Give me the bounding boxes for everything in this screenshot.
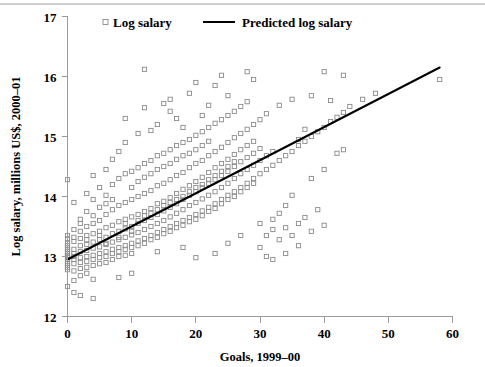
- data-point: [142, 214, 146, 218]
- data-point: [142, 106, 146, 110]
- data-point: [303, 127, 307, 131]
- data-point: [162, 232, 166, 236]
- data-point: [226, 140, 230, 144]
- data-point: [117, 203, 121, 207]
- data-point: [264, 112, 268, 116]
- data-point: [130, 169, 134, 173]
- data-point: [219, 145, 223, 149]
- data-point: [149, 188, 153, 192]
- data-point: [78, 260, 82, 264]
- data-point: [78, 293, 82, 297]
- x-axis-title: Goals, 1999–00: [220, 350, 301, 364]
- data-point: [142, 227, 146, 231]
- data-point: [226, 197, 230, 201]
- data-point: [110, 251, 114, 255]
- data-point: [200, 197, 204, 201]
- data-point: [264, 233, 268, 237]
- data-point: [271, 227, 275, 231]
- data-point: [91, 296, 95, 300]
- data-point: [123, 200, 127, 204]
- data-point: [213, 83, 217, 87]
- data-point: [117, 149, 121, 153]
- data-point: [168, 224, 172, 228]
- data-point: [97, 218, 101, 222]
- data-point: [181, 170, 185, 174]
- data-point: [226, 164, 230, 168]
- data-point: [117, 245, 121, 249]
- data-point: [110, 157, 114, 161]
- data-point: [130, 215, 134, 219]
- data-point: [181, 140, 185, 144]
- data-point: [91, 214, 95, 218]
- x-axis-tick-label: 50: [382, 326, 395, 341]
- data-point: [219, 173, 223, 177]
- data-point: [219, 118, 223, 122]
- y-axis-title: Log salary, millions US$, 2000–01: [9, 77, 23, 257]
- data-point: [104, 241, 108, 245]
- data-point: [239, 185, 243, 189]
- data-point: [85, 191, 89, 195]
- data-point: [187, 203, 191, 207]
- y-axis-tick-label: 16: [44, 70, 58, 85]
- scatter-plot: 1213141516170102030405060Goals, 1999–00L…: [0, 0, 485, 367]
- data-point: [174, 191, 178, 195]
- data-point: [149, 158, 153, 162]
- data-point: [181, 245, 185, 249]
- data-point: [168, 200, 172, 204]
- data-point: [239, 233, 243, 237]
- data-point: [277, 158, 281, 162]
- data-point: [136, 179, 140, 183]
- data-point: [245, 127, 249, 131]
- data-point: [85, 259, 89, 263]
- data-point: [341, 110, 345, 114]
- data-point: [117, 235, 121, 239]
- data-point: [97, 245, 101, 249]
- data-point: [104, 250, 108, 254]
- data-point: [91, 277, 95, 281]
- data-point: [271, 163, 275, 167]
- data-point: [149, 224, 153, 228]
- data-point: [136, 212, 140, 216]
- data-point: [78, 266, 82, 270]
- data-point: [245, 143, 249, 147]
- x-axis-tick-label: 0: [64, 326, 71, 341]
- x-axis-tick-label: 10: [125, 326, 138, 341]
- data-point: [181, 218, 185, 222]
- data-point: [181, 223, 185, 227]
- data-point: [91, 240, 95, 244]
- data-point: [194, 148, 198, 152]
- data-point: [258, 172, 262, 176]
- data-point: [232, 164, 236, 168]
- data-point: [91, 197, 95, 201]
- data-point: [123, 116, 127, 120]
- data-point: [104, 254, 108, 258]
- data-point: [168, 148, 172, 152]
- data-point: [97, 251, 101, 255]
- data-point: [226, 193, 230, 197]
- data-point: [110, 197, 114, 201]
- data-point: [284, 226, 288, 230]
- data-point: [155, 221, 159, 225]
- data-point: [316, 208, 320, 212]
- data-point: [130, 197, 134, 201]
- x-axis-tick-label: 60: [446, 326, 459, 341]
- data-point: [290, 149, 294, 153]
- data-point: [200, 209, 204, 213]
- data-point: [207, 139, 211, 143]
- data-point: [348, 104, 352, 108]
- data-point: [136, 244, 140, 248]
- data-point: [264, 167, 268, 171]
- data-point: [181, 154, 185, 158]
- data-point: [245, 100, 249, 104]
- data-point: [322, 70, 326, 74]
- chart-legend: Log salaryPredicted log salary: [103, 15, 353, 30]
- data-point: [91, 257, 95, 261]
- data-point: [162, 164, 166, 168]
- data-point: [104, 202, 108, 206]
- data-point: [174, 116, 178, 120]
- data-point: [149, 172, 153, 176]
- data-point: [130, 241, 134, 245]
- x-axis-tick-label: 20: [189, 326, 202, 341]
- data-point: [91, 173, 95, 177]
- data-point: [232, 194, 236, 198]
